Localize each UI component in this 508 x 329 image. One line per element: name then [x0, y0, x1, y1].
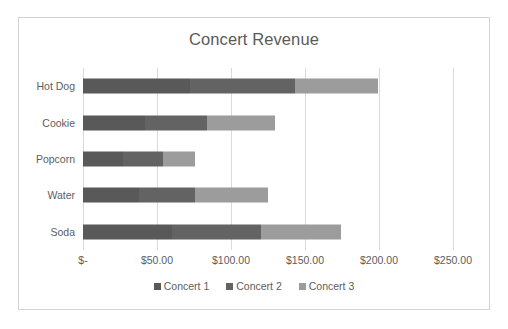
stacked-bar[interactable] — [83, 224, 341, 239]
bar-segment[interactable] — [163, 151, 196, 166]
category-row: Hot Dog — [83, 68, 453, 104]
category-row: Soda — [83, 214, 453, 250]
category-label: Cookie — [42, 117, 75, 129]
stacked-bar[interactable] — [83, 115, 275, 130]
plot-area: Hot DogCookiePopcornWaterSoda — [83, 68, 453, 250]
legend-item[interactable]: Concert 3 — [299, 280, 355, 292]
bar-segment[interactable] — [195, 188, 268, 203]
legend-label: Concert 2 — [236, 280, 282, 292]
x-axis-tick-label: $50.00 — [141, 254, 173, 266]
bar-segment[interactable] — [123, 151, 163, 166]
bar-segment[interactable] — [83, 151, 123, 166]
bar-segment[interactable] — [145, 115, 207, 130]
bar-segment[interactable] — [207, 115, 275, 130]
chart-title: Concert Revenue — [19, 30, 489, 49]
bar-segment[interactable] — [172, 224, 261, 239]
stacked-bar[interactable] — [83, 79, 378, 94]
bar-segment[interactable] — [83, 115, 145, 130]
legend-label: Concert 3 — [309, 280, 355, 292]
category-row: Cookie — [83, 104, 453, 140]
bar-segment[interactable] — [83, 224, 172, 239]
bar-segment[interactable] — [83, 79, 190, 94]
bar-segment[interactable] — [261, 224, 341, 239]
legend-swatch-icon — [154, 283, 161, 290]
category-label: Popcorn — [36, 153, 75, 165]
category-label: Soda — [50, 226, 75, 238]
legend-item[interactable]: Concert 1 — [154, 280, 210, 292]
category-row: Water — [83, 177, 453, 213]
x-axis-tick-label: $250.00 — [434, 254, 472, 266]
category-label: Hot Dog — [36, 80, 75, 92]
x-axis-tick-label: $150.00 — [286, 254, 324, 266]
legend-item[interactable]: Concert 2 — [226, 280, 282, 292]
legend-swatch-icon — [226, 283, 233, 290]
bar-segment[interactable] — [190, 79, 295, 94]
bar-segment[interactable] — [139, 188, 195, 203]
category-row: Popcorn — [83, 141, 453, 177]
category-label: Water — [47, 189, 75, 201]
chart-container: Concert Revenue Hot DogCookiePopcornWate… — [18, 17, 490, 310]
chart-legend: Concert 1Concert 2Concert 3 — [19, 280, 489, 292]
legend-swatch-icon — [299, 283, 306, 290]
gridline-5 — [453, 68, 454, 250]
stacked-bar[interactable] — [83, 151, 195, 166]
bar-segment[interactable] — [295, 79, 378, 94]
x-axis-tick-label: $100.00 — [212, 254, 250, 266]
x-axis-tick-label: $200.00 — [360, 254, 398, 266]
stacked-bar[interactable] — [83, 188, 268, 203]
x-axis-tick-label: $- — [78, 254, 87, 266]
x-axis: $-$50.00$100.00$150.00$200.00$250.00 — [83, 252, 453, 270]
legend-label: Concert 1 — [164, 280, 210, 292]
bar-segment[interactable] — [83, 188, 139, 203]
